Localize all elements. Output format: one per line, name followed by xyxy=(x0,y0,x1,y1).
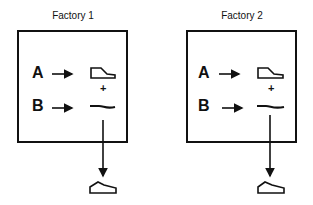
shoe-icon xyxy=(258,182,284,193)
shoe-sole-icon xyxy=(90,106,115,108)
shoe-upper-icon xyxy=(91,68,115,78)
shoe-icon xyxy=(90,182,116,193)
factory-2-drawings: + xyxy=(219,68,284,193)
shoe-sole-icon xyxy=(257,106,284,108)
diagram-drawings: + + xyxy=(0,0,313,205)
svg-text:+: + xyxy=(268,82,274,94)
svg-text:+: + xyxy=(100,82,106,94)
shoe-upper-icon xyxy=(258,68,283,78)
factory-1-drawings: + xyxy=(52,68,116,193)
